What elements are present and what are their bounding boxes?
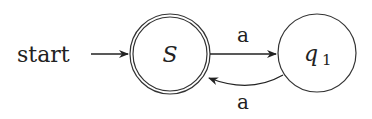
start-label: start	[17, 42, 70, 67]
state-subscript: 1	[322, 51, 332, 69]
state-q1: q 1	[278, 14, 356, 92]
automaton-diagram: start S q 1 a a	[0, 0, 372, 119]
state-label: q	[304, 41, 318, 66]
transition-label: a	[237, 23, 249, 47]
transition-label: a	[237, 90, 249, 114]
transition-q1-S	[209, 75, 283, 85]
state-label: S	[162, 42, 177, 67]
state-S: S	[130, 14, 210, 94]
